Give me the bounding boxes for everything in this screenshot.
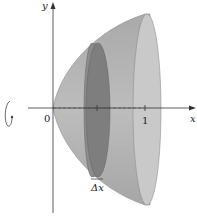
y-axis-arrow-icon	[51, 2, 56, 9]
solid-of-revolution-diagram: y x 0 1 Δx	[0, 0, 197, 220]
x-axis-arrow-icon	[189, 106, 196, 111]
x-axis-label: x	[190, 113, 196, 124]
diagram-canvas: y x 0 1 Δx	[0, 0, 197, 220]
rotation-arrow-icon	[5, 101, 12, 126]
disk-slice-face	[86, 43, 110, 177]
origin-label: 0	[44, 113, 50, 124]
rotation-arrow-head	[11, 116, 13, 118]
delta-x-label: Δx	[90, 182, 104, 193]
rim-ellipse	[133, 14, 161, 205]
tick-label-1: 1	[142, 115, 148, 126]
y-axis-label: y	[41, 0, 48, 11]
